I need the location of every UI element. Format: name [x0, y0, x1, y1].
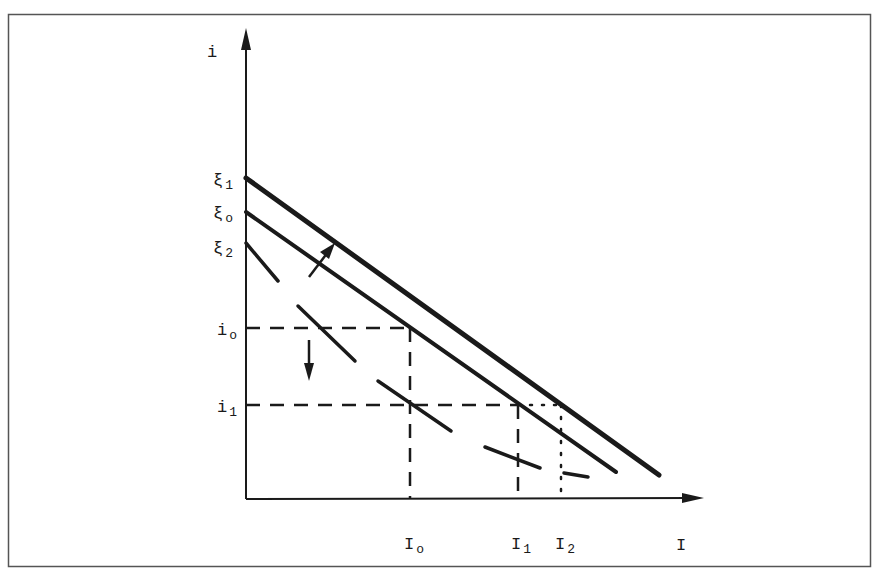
frame-border	[9, 15, 871, 567]
xi2-label: ξ2	[213, 240, 233, 257]
xi0-label: ξo	[213, 205, 233, 222]
x-axis-arrow-icon	[682, 493, 704, 503]
i1-tick-label: i1	[217, 399, 237, 416]
y-axis-label: i	[207, 44, 217, 61]
rate-down-arrow-icon	[304, 340, 314, 381]
y-axis	[241, 28, 251, 499]
xi1-label: ξ1	[213, 172, 233, 189]
I0-tick-label: Io	[404, 536, 424, 553]
x-axis	[246, 493, 704, 503]
xi2-dashed-line	[246, 243, 588, 477]
xi0-line	[246, 212, 616, 472]
diagram-canvas	[0, 0, 879, 580]
y-axis-arrow-icon	[241, 28, 251, 50]
I1-tick-label: I1	[511, 536, 531, 553]
I2-tick-label: I2	[555, 536, 575, 553]
i0-tick-label: io	[217, 322, 237, 339]
x-axis-label: I	[676, 537, 686, 554]
